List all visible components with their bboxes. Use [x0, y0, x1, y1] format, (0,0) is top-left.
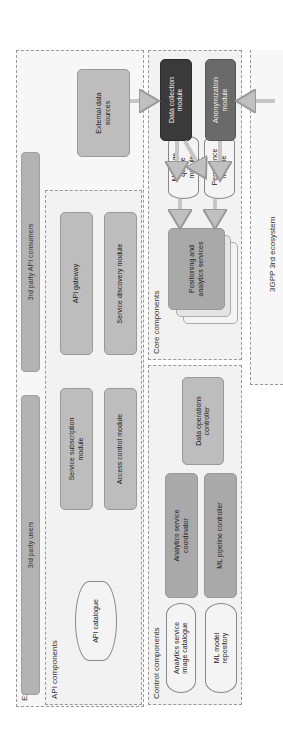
ml-model-repository-cylinder: ML model repository	[205, 603, 237, 693]
data-collection-label: Data collection module	[168, 70, 185, 130]
data-operations-controller-label: Data operations controller	[195, 391, 212, 451]
positioning-analytics-label: Positioning and analytics services	[188, 239, 205, 299]
gpp-ecosystem-region	[250, 50, 283, 385]
api-catalogue-cylinder: API catalogue	[75, 581, 117, 661]
image-catalogue-label: Analytics service image catalogue	[173, 618, 190, 678]
core-components-label: Core components	[152, 291, 161, 354]
access-control-box: Access control module	[104, 388, 137, 510]
data-operations-controller-box: Data operations controller	[182, 377, 224, 465]
architecture-diagram: External environment 3rd party users 3rd…	[0, 0, 283, 747]
service-subscription-box: Service subscription module	[60, 388, 93, 510]
external-data-sources-box: External data sources	[77, 69, 130, 157]
api-gateway-box: API gateway	[60, 212, 93, 355]
external-data-sources-label: External data sources	[95, 83, 112, 143]
service-discovery-label: Service discovery module	[116, 244, 125, 324]
third-party-api-consumers-strip: 3rd party API consumers	[21, 152, 40, 372]
anonymization-label: Anonymization module	[212, 70, 229, 130]
api-components-label: API components	[50, 640, 59, 699]
service-subscription-label: Service subscription module	[68, 409, 85, 489]
message-queue-label: Message queue module	[171, 145, 197, 189]
ml-model-repository-label: ML model repository	[213, 623, 230, 673]
data-collection-box: Data collection module	[160, 59, 192, 141]
positioning-analytics-box: Positioning and analytics services	[168, 228, 225, 310]
image-catalogue-cylinder: Analytics service image catalogue	[166, 603, 196, 693]
control-components-label: Control components	[152, 627, 161, 699]
ml-pipeline-controller-label: ML pipeline controller	[216, 502, 225, 568]
persistence-label: Persistence module	[211, 145, 228, 189]
message-queue-cylinder: Message queue module	[168, 135, 199, 199]
api-gateway-label: API gateway	[72, 264, 81, 303]
ml-pipeline-controller-box: ML pipeline controller	[204, 473, 237, 598]
gpp-ecosystem-label: 3GPP 3rd ecosystem	[268, 217, 277, 292]
anonymization-box: Anonymization module	[205, 59, 236, 141]
api-catalogue-label: API catalogue	[92, 599, 101, 643]
analytics-coordinator-label: Analytics service coordinator	[173, 496, 190, 576]
access-control-label: Access control module	[116, 414, 125, 484]
analytics-coordinator-box: Analytics service coordinator	[165, 473, 198, 598]
service-discovery-box: Service discovery module	[104, 212, 137, 355]
persistence-cylinder: Persistence module	[204, 135, 235, 199]
third-party-users-strip: 3rd party users	[21, 395, 40, 695]
